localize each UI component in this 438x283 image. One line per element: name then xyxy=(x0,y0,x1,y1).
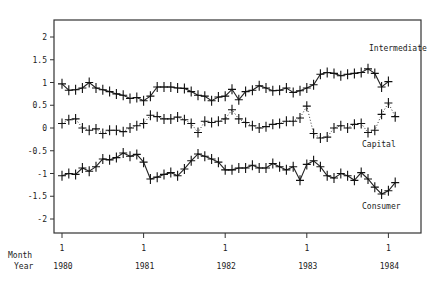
plus-marker-icon xyxy=(92,83,100,93)
plus-marker-icon xyxy=(228,105,236,115)
plus-marker-icon xyxy=(282,116,290,126)
plus-marker-icon xyxy=(262,163,270,173)
plus-marker-icon xyxy=(146,174,154,184)
plus-marker-icon xyxy=(262,83,270,93)
plus-marker-icon xyxy=(262,122,270,132)
plus-marker-icon xyxy=(255,123,263,133)
plus-marker-icon xyxy=(371,125,379,135)
plus-marker-icon xyxy=(289,162,297,172)
plus-marker-icon xyxy=(330,173,338,183)
plus-marker-icon xyxy=(160,169,168,179)
y-axis: 21.510.50-0.5-1-1.5-2 xyxy=(28,33,54,224)
plus-marker-icon xyxy=(106,155,114,165)
plus-marker-icon xyxy=(58,79,66,89)
plus-marker-icon xyxy=(153,172,161,182)
plus-marker-icon xyxy=(303,159,311,169)
plus-marker-icon xyxy=(72,85,80,95)
plus-marker-icon xyxy=(344,69,352,79)
x-tick-month-label: 1 xyxy=(60,244,65,253)
y-tick-label: -0.5 xyxy=(28,147,47,156)
plus-marker-icon xyxy=(153,112,161,122)
x-axis-label-year: Year xyxy=(14,262,33,271)
x-tick-year-label: 1981 xyxy=(135,262,154,271)
plus-marker-icon xyxy=(201,151,209,161)
plus-marker-icon xyxy=(85,125,93,135)
series-intermediate: Intermediate xyxy=(58,44,427,106)
plus-marker-icon xyxy=(289,88,297,98)
plus-marker-icon xyxy=(337,71,345,81)
line-chart: 21.510.50-0.5-1-1.5-2 119801198111982119… xyxy=(0,0,438,283)
plus-marker-icon xyxy=(316,133,324,143)
plus-marker-icon xyxy=(174,112,182,122)
plus-marker-icon xyxy=(167,82,175,92)
y-tick-label: 0.5 xyxy=(33,101,48,110)
plus-marker-icon xyxy=(133,121,141,131)
plus-marker-icon xyxy=(310,156,318,166)
plus-marker-icon xyxy=(296,175,304,185)
y-tick-label: -1 xyxy=(37,170,47,179)
plus-marker-icon xyxy=(384,77,392,87)
plus-marker-icon xyxy=(303,101,311,111)
plus-marker-icon xyxy=(242,163,250,173)
plus-marker-icon xyxy=(58,171,66,181)
plus-marker-icon xyxy=(296,86,304,96)
x-tick-year-label: 1982 xyxy=(217,262,236,271)
plus-marker-icon xyxy=(391,112,399,122)
x-tick-month-label: 1 xyxy=(141,244,146,253)
plus-marker-icon xyxy=(72,169,80,179)
plus-marker-icon xyxy=(201,91,209,101)
x-tick-month-label: 1 xyxy=(304,244,309,253)
plus-marker-icon xyxy=(248,85,256,95)
x-tick-year-label: 1980 xyxy=(53,262,72,271)
series-label: Capital xyxy=(362,140,396,149)
plus-marker-icon xyxy=(350,68,358,78)
plus-marker-icon xyxy=(194,128,202,138)
plus-marker-icon xyxy=(112,89,120,99)
y-tick-label: 2 xyxy=(42,33,47,42)
plus-marker-icon xyxy=(378,82,386,92)
plus-marker-icon xyxy=(167,114,175,124)
series-consumer: Consumer xyxy=(58,148,401,211)
plus-marker-icon xyxy=(112,153,120,163)
plus-marker-icon xyxy=(214,116,222,126)
series-line xyxy=(62,103,395,138)
plus-marker-icon xyxy=(303,83,311,93)
plus-marker-icon xyxy=(344,171,352,181)
plus-marker-icon xyxy=(371,68,379,78)
plus-marker-icon xyxy=(112,125,120,135)
plus-marker-icon xyxy=(276,85,284,95)
plus-marker-icon xyxy=(276,118,284,128)
x-tick-month-label: 1 xyxy=(223,244,228,253)
series-group: IntermediateCapitalConsumer xyxy=(58,44,427,211)
plus-marker-icon xyxy=(228,165,236,175)
series-label: Intermediate xyxy=(369,44,427,53)
plus-marker-icon xyxy=(269,119,277,129)
plus-marker-icon xyxy=(282,83,290,93)
plus-marker-icon xyxy=(99,85,107,95)
y-tick-label: -1.5 xyxy=(28,192,47,201)
plus-marker-icon xyxy=(146,110,154,120)
plus-marker-icon xyxy=(106,87,114,97)
plus-marker-icon xyxy=(384,98,392,108)
plus-marker-icon xyxy=(337,121,345,131)
x-tick-year-label: 1983 xyxy=(298,262,317,271)
x-tick-month-label: 1 xyxy=(386,244,391,253)
y-tick-label: -2 xyxy=(37,215,47,224)
plus-marker-icon xyxy=(337,169,345,179)
plus-marker-icon xyxy=(378,109,386,119)
plus-marker-icon xyxy=(65,169,73,179)
chart-container: 21.510.50-0.5-1-1.5-2 119801198111982119… xyxy=(0,0,438,283)
series-capital: Capital xyxy=(58,98,399,149)
plus-marker-icon xyxy=(85,78,93,88)
y-tick-label: 1.5 xyxy=(33,56,48,65)
y-tick-label: 1 xyxy=(42,79,47,88)
plus-marker-icon xyxy=(323,67,331,77)
plus-marker-icon xyxy=(330,68,338,78)
series-line xyxy=(62,153,395,194)
plus-marker-icon xyxy=(72,114,80,124)
plus-marker-icon xyxy=(78,83,86,93)
plus-marker-icon xyxy=(201,116,209,126)
plus-marker-icon xyxy=(248,160,256,170)
plus-marker-icon xyxy=(208,118,216,128)
plus-marker-icon xyxy=(310,128,318,138)
